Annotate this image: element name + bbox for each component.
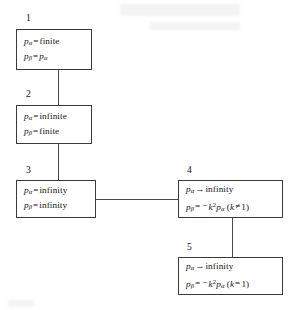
node-box-5[interactable]: pα→infinity pβ=−k2pα (k=1) [178, 257, 283, 295]
node-label-3: 3 [26, 165, 31, 175]
node-label-1: 1 [26, 13, 31, 23]
node-5-line-1: pα→infinity [186, 260, 282, 275]
diagram-canvas: 1 pα=finite pβ=pα 2 pα=infinite pβ=finit… [0, 0, 301, 310]
node-2-line-1: pα=infinite [24, 110, 91, 125]
edge-3-to-4 [96, 199, 179, 200]
node-box-3[interactable]: pα=infinity pβ=infinity [16, 180, 96, 218]
node-box-1[interactable]: pα=finite pβ=pα [16, 29, 92, 70]
edge-4-to-5 [232, 218, 233, 258]
node-4-line-1: pα→infinity [186, 183, 282, 198]
edge-1-to-2 [58, 70, 59, 106]
node-box-2[interactable]: pα=infinite pβ=finite [16, 105, 92, 144]
node-4-line-2: pβ=−k2pα (k≠1) [186, 198, 282, 216]
scan-artifact [120, 4, 240, 16]
scan-artifact [8, 300, 34, 307]
node-box-4[interactable]: pα→infinity pβ=−k2pα (k≠1) [178, 180, 283, 218]
edge-2-to-3 [58, 144, 59, 181]
node-label-2: 2 [26, 89, 31, 99]
node-1-line-2: pβ=pα [24, 50, 91, 65]
node-3-line-1: pα=infinity [24, 184, 95, 199]
scan-artifact [150, 22, 240, 30]
node-label-5: 5 [187, 242, 192, 252]
node-1-line-1: pα=finite [24, 35, 91, 50]
node-5-line-2: pβ=−k2pα (k=1) [186, 275, 282, 293]
node-label-4: 4 [187, 165, 192, 175]
node-2-line-2: pβ=finite [24, 125, 91, 140]
node-3-line-2: pβ=infinity [24, 199, 95, 214]
